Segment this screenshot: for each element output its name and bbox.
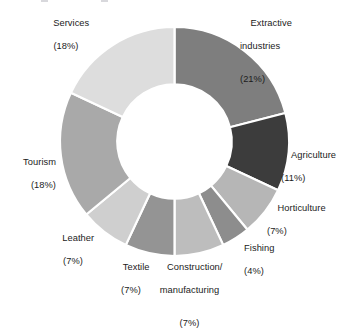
slice-label-agriculture-name: Agriculture [291,150,336,160]
slice-label-extractive-pct: (21%) [240,74,342,85]
slice-label-tourism-name: Tourism [23,157,56,167]
slice-label-textile-pct: (7%) [108,285,154,296]
slice-label-leather-pct: (7%) [46,256,100,267]
slice-label-fishing-pct: (4%) [227,266,281,277]
slice-label-tourism: Tourism (18%) [2,146,56,213]
slice-label-construction-manufacturing: Construction/ manufacturing (7%) [148,251,231,332]
slice-label-leather-name: Leather [62,233,94,243]
slice-label-leather: Leather (7%) [46,222,100,289]
slice-label-agriculture-pct: (11%) [281,173,347,184]
slice-label-horticulture-name: Horticulture [278,203,326,213]
slice-label-services: Services (18%) [18,7,114,74]
slice-label-extractive-line1: Extractive [251,18,292,28]
slice-label-services-pct: (18%) [18,41,114,52]
slice-label-extractive-industries: Extractive industries (21%) [240,7,342,108]
slice-label-construction-line1: Construction/ [167,262,222,272]
slice-label-extractive-line2: industries [240,41,342,52]
slice-label-fishing-name: Fishing [244,243,274,253]
slice-label-services-name: Services [53,18,89,28]
slice-label-construction-line2: manufacturing [148,285,231,296]
slice-label-tourism-pct: (18%) [2,180,56,191]
slice-label-fishing: Fishing (4%) [227,232,281,299]
slice-label-construction-pct: (7%) [148,318,231,329]
slice-label-textile-name: Textile [123,262,150,272]
slice-label-textile: Textile (7%) [108,251,154,318]
